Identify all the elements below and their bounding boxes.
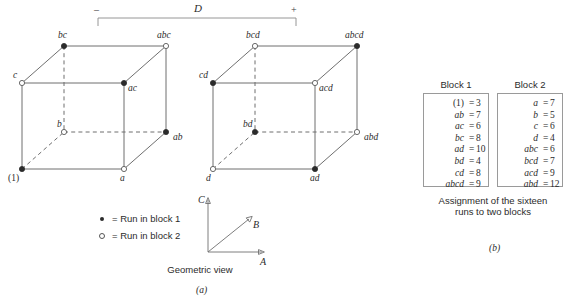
vertex-label-one: (1)	[8, 174, 19, 184]
run-name: acd	[504, 168, 543, 178]
factor-d-bracket	[98, 18, 296, 26]
vertex-label-abcd: abcd	[345, 31, 363, 41]
vertex-abc	[163, 43, 168, 48]
run-value: 4	[550, 133, 555, 143]
run-name: ab	[430, 110, 469, 120]
vertex-label-ad: ad	[310, 174, 320, 184]
subfigure-label-a: (a)	[196, 285, 207, 295]
equals-sign: =	[469, 133, 476, 143]
vertex-bcd	[252, 43, 257, 48]
vertex-ac	[121, 80, 126, 85]
run-value: 5	[550, 110, 555, 120]
equals-sign: =	[543, 121, 550, 131]
run-value: 6	[550, 144, 555, 154]
table-row: ab = 7	[430, 110, 482, 122]
equals-sign: =	[469, 121, 476, 131]
factor-d-plus-sign: +	[291, 4, 297, 15]
vertex-label-bd: bd	[243, 120, 253, 130]
run-name: bcd	[504, 156, 543, 166]
equals-sign: =	[469, 98, 476, 108]
subfigure-label-b: (b)	[489, 243, 500, 253]
equals-sign: =	[543, 168, 550, 178]
block2-title: Block 2	[497, 79, 563, 90]
block2-box: a = 7 b = 5 c = 6 d = 4 abc = 6 bcd = 7	[497, 93, 563, 187]
table-row: abcd = 9	[430, 179, 482, 191]
run-name: bc	[430, 133, 469, 143]
run-name: c	[504, 121, 543, 131]
equals-sign: =	[543, 110, 550, 120]
run-value: 8	[476, 168, 481, 178]
equals-sign: =	[543, 98, 550, 108]
run-name: abc	[504, 144, 543, 154]
run-value: 6	[476, 121, 481, 131]
vertex-ad	[312, 166, 317, 171]
run-value: 4	[476, 156, 481, 166]
legend-item-block2: = Run in block 2	[96, 227, 180, 244]
table-row: ac = 6	[430, 121, 482, 133]
equals-sign: =	[543, 133, 550, 143]
run-value: 10	[476, 144, 486, 154]
table-row: b = 5	[504, 110, 556, 122]
table-row: (1) = 3	[430, 98, 482, 110]
vertex-label-c: c	[13, 71, 17, 81]
equals-sign: =	[469, 144, 476, 154]
run-value: 9	[550, 168, 555, 178]
vertex-label-d: d	[206, 174, 211, 184]
figure-root: .edge { stroke:#6f6f6f; stroke-width:1; …	[0, 0, 569, 303]
table-row: bc = 8	[430, 133, 482, 145]
vertex-d	[210, 166, 215, 171]
caption-geometric-view: Geometric view	[140, 264, 260, 275]
caption-assignment-line1: Assignment of the sixteen	[423, 195, 563, 206]
table-row: abd = 12	[504, 179, 556, 191]
run-name: ad	[430, 144, 469, 154]
run-value: 7	[550, 98, 555, 108]
axis-label-a: A	[260, 256, 266, 267]
vertex-abd	[354, 129, 359, 134]
block1-box: (1) = 3 ab = 7 ac = 6 bc = 8 ad = 10 bd …	[423, 93, 489, 187]
equals-sign: =	[543, 144, 550, 154]
factor-d-minus-sign: –	[94, 4, 99, 15]
run-value: 9	[476, 179, 481, 189]
table-row: bcd = 7	[504, 156, 556, 168]
vertex-label-abd: abd	[364, 133, 378, 143]
vertex-b	[61, 129, 66, 134]
legend-item-block1: = Run in block 1	[96, 210, 180, 227]
cube-d-low	[19, 43, 168, 171]
run-name: abd	[504, 179, 543, 189]
block1-title: Block 1	[423, 79, 489, 90]
run-name: d	[504, 133, 543, 143]
vertex-label-a: a	[120, 174, 125, 184]
caption-assignment-line2: runs to two blocks	[423, 206, 563, 217]
vertex-bd	[252, 129, 257, 134]
table-row: d = 4	[504, 133, 556, 145]
run-value: 12	[550, 179, 560, 189]
axis-label-c: C	[198, 194, 205, 205]
legend-label-block1: = Run in block 1	[112, 213, 180, 224]
vertex-label-bcd: bcd	[246, 31, 260, 41]
table-row: a = 7	[504, 98, 556, 110]
filled-dot-icon	[96, 213, 108, 224]
cube-d-high	[210, 43, 359, 171]
vertex-label-bc: bc	[58, 31, 67, 41]
run-name: ac	[430, 121, 469, 131]
table-row: ad = 10	[430, 144, 482, 156]
run-name: cd	[430, 168, 469, 178]
vertex-label-ac: ac	[128, 84, 137, 94]
axis-label-b: B	[253, 219, 259, 230]
equals-sign: =	[469, 179, 476, 189]
equals-sign: =	[543, 179, 550, 189]
run-value: 7	[550, 156, 555, 166]
vertex-bc	[61, 43, 66, 48]
vertex-label-cd: cd	[199, 71, 208, 81]
vertex-label-ab: ab	[173, 133, 183, 143]
vertex-cd	[210, 80, 215, 85]
vertex-a	[121, 166, 126, 171]
table-row: c = 6	[504, 121, 556, 133]
vertex-ab	[163, 129, 168, 134]
table-row: acd = 9	[504, 168, 556, 180]
vertex-label-b: b	[57, 120, 62, 130]
vertex-abcd	[354, 43, 359, 48]
run-value: 3	[476, 98, 481, 108]
run-value: 6	[550, 121, 555, 131]
vertex-acd	[312, 80, 317, 85]
